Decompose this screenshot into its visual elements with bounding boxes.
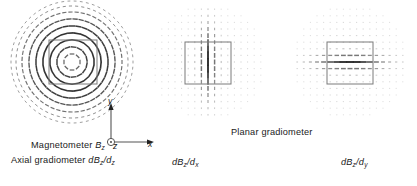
caption-dbz-dx: dBz/dx: [172, 157, 199, 168]
caption-dbz-dy: dBz/dy: [341, 157, 368, 168]
panel-dbz-dx: [139, 0, 279, 132]
panel-dbz-dy: [280, 0, 417, 132]
caption-magnetometer: Magnetometer Bz: [31, 140, 105, 151]
caption-dbzdy-denominator-subscript: y: [364, 161, 367, 168]
z-axis-dot-icon: [110, 141, 112, 143]
caption-magnetometer-prefix: Magnetometer: [31, 140, 95, 150]
caption-axial-prefix: Axial gradiometer: [11, 155, 88, 165]
caption-dbzdx-denominator-subscript: x: [195, 161, 198, 168]
caption-dbzdx-numerator: dB: [172, 157, 184, 167]
axis-label-y: y: [108, 96, 112, 106]
caption-axial-numerator: dB: [88, 155, 100, 165]
caption-magnetometer-symbol: B: [95, 140, 101, 150]
caption-dbzdy-numerator: dB: [341, 157, 353, 167]
caption-dbzdx-numerator-subscript: z: [184, 161, 187, 168]
caption-magnetometer-subscript: z: [102, 144, 105, 151]
caption-axial-denominator-subscript: z: [112, 159, 115, 166]
sensitivity-maps-figure: y x z Magnetometer Bz Axial gradiometer …: [0, 0, 417, 186]
axis-label-z: z: [113, 141, 117, 151]
caption-dbzdy-numerator-subscript: z: [353, 161, 356, 168]
axis-label-x: x: [148, 139, 152, 149]
caption-planar-gradiometer: Planar gradiometer: [231, 127, 312, 138]
dbz-dy-field-plot: [280, 0, 417, 132]
caption-axial-numerator-subscript: z: [100, 159, 103, 166]
caption-axial-denominator: d: [106, 155, 111, 165]
dbz-dx-field-plot: [139, 0, 279, 132]
caption-axial-gradiometer: Axial gradiometer dBz/dz: [11, 155, 115, 166]
